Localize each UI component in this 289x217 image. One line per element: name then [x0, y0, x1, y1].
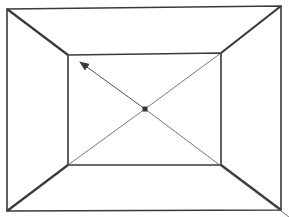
vanishing-point-marker [143, 107, 148, 112]
sight-line-bl [68, 109, 145, 165]
edge-top-right [221, 6, 281, 53]
edge-bottom-right [221, 165, 281, 210]
arrow [80, 62, 145, 109]
perspective-diagram [0, 0, 289, 217]
sight-line-br [145, 109, 289, 217]
edge-bottom-left [7, 165, 68, 211]
sight-line-tr [145, 53, 221, 109]
edge-top-left [7, 9, 68, 55]
